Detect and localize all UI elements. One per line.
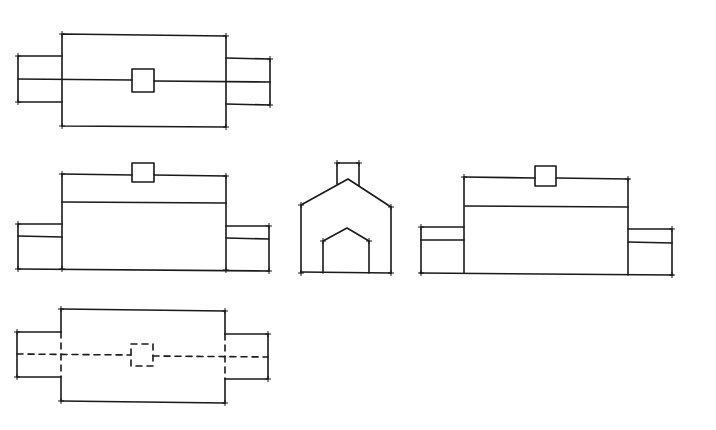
ridge-hidden-right	[153, 356, 268, 357]
ridge-line-left	[18, 79, 132, 80]
plan-bottom-view	[17, 309, 268, 403]
right-wing-eave	[226, 238, 269, 239]
chimney-elevation	[132, 163, 154, 182]
corner-ticks	[14, 31, 675, 406]
right-wing	[226, 226, 269, 271]
chimney-plan	[132, 69, 154, 92]
front-elevation-view	[18, 163, 269, 271]
eave-line	[62, 202, 226, 203]
right-wing-eave	[628, 242, 672, 243]
wing-gable-outline	[323, 228, 369, 273]
roof-top-line-left	[464, 177, 535, 178]
side-elevation-view	[301, 163, 391, 273]
gable-outline	[301, 179, 391, 273]
left-wing-eave	[18, 236, 62, 237]
right-wing	[628, 229, 672, 275]
ridge-hidden-left	[17, 354, 131, 355]
ground-line	[301, 272, 391, 273]
main-body-outline	[62, 34, 226, 127]
roof-top-line-right	[556, 178, 629, 179]
eave-line	[465, 206, 628, 207]
roof-top-line-left	[62, 174, 132, 175]
left-wing	[421, 227, 464, 273]
roof-top-line-right	[154, 175, 226, 176]
plan-top-view	[18, 34, 270, 127]
rear-elevation-view	[420, 166, 673, 275]
drawing-canvas	[0, 0, 716, 430]
main-bottom-edge	[61, 401, 225, 403]
main-top-edge	[61, 309, 225, 311]
chimney-hidden	[131, 344, 153, 366]
ridge-line-right	[154, 81, 270, 82]
ground-line	[420, 273, 673, 275]
left-wing	[18, 224, 62, 269]
chimney-elevation	[535, 166, 556, 186]
ground-line	[18, 269, 269, 271]
